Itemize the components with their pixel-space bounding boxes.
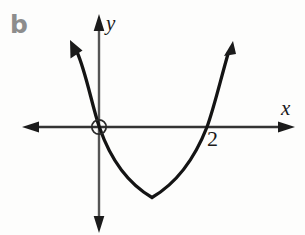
parabola-curve — [70, 40, 236, 198]
y-axis-top-arrowhead — [94, 14, 105, 31]
parabola-right-arrowhead — [224, 41, 236, 56]
graph-canvas — [0, 0, 305, 235]
x-axis-label: x — [281, 98, 290, 119]
parabola-left-arrowhead — [70, 40, 83, 59]
y-axis-bottom-arrowhead — [94, 216, 105, 233]
figure-panel: b y x 2 — [0, 0, 305, 235]
x-axis-left-arrowhead — [22, 122, 39, 133]
y-axis-label: y — [106, 13, 115, 34]
x-axis-right-arrowhead — [278, 122, 295, 133]
x-intercept-tick-label: 2 — [207, 128, 218, 150]
x-axis — [22, 122, 295, 133]
